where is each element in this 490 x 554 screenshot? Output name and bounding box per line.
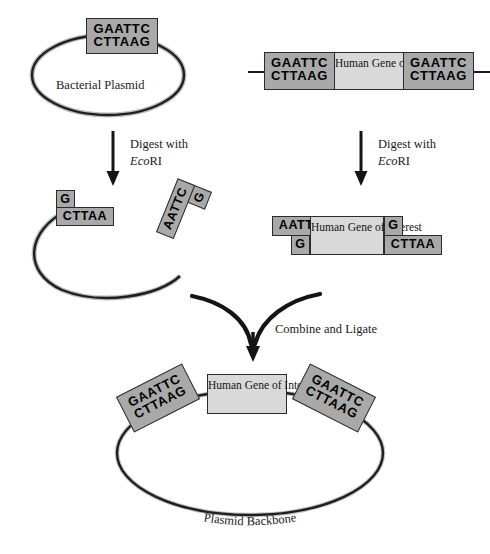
human-left-site-bottom-strand: CTTAAG [265, 69, 334, 82]
human-dna-right-tail [474, 71, 490, 73]
cut-plasmid-left-end-bottom: CTTAA [56, 207, 114, 226]
recombinant-gene-box: Human Gene of Interest [207, 374, 287, 414]
bacterial-plasmid-label: Bacterial Plasmid [56, 78, 145, 93]
diagram-canvas: Bacterial Plasmid GAATTC CTTAAG GAATTC C… [0, 0, 490, 554]
cut-plasmid-left-end-top: G [56, 190, 75, 208]
digest-right-enzyme-italic: Eco [378, 154, 397, 168]
cut-fragment-gene-box: Human Gene of Interest [310, 216, 384, 255]
human-dna-right-ecori-site: GAATTC CTTAAG [403, 52, 474, 90]
digest-arrow-right [352, 131, 372, 187]
human-gene-of-interest-box: Human Gene of Interest [334, 52, 404, 90]
human-gene-label-line1: Human Gene [335, 57, 396, 69]
digest-arrow-left [104, 131, 124, 187]
human-right-site-bottom-strand: CTTAAG [404, 69, 473, 82]
digest-left-caption: Digest with EcoRI [130, 136, 188, 170]
combine-and-ligate-label: Combine and Ligate [275, 322, 377, 337]
digest-left-enzyme-italic: Eco [130, 154, 149, 168]
cut-fragment-gene-line1: Human Gene [311, 221, 372, 233]
plasmid-site-bottom-strand: CTTAAG [87, 35, 157, 48]
plasmid-ecori-site: GAATTC CTTAAG [86, 18, 158, 54]
digest-left-line1: Digest with [130, 137, 188, 151]
digest-right-line1: Digest with [378, 137, 436, 151]
cut-fragment-right-end-bottom: CTTAA [384, 235, 442, 255]
recombinant-gene-line1: Human Gene [208, 379, 269, 391]
digest-left-enzyme-roman: RI [149, 154, 162, 168]
cut-fragment-left-end-bottom: G [291, 235, 310, 255]
digest-right-enzyme-roman: RI [397, 154, 410, 168]
cut-fragment-right-end-top: G [384, 216, 403, 236]
human-dna-left-ecori-site: GAATTC CTTAAG [264, 52, 335, 90]
digest-right-caption: Digest with EcoRI [378, 136, 436, 170]
